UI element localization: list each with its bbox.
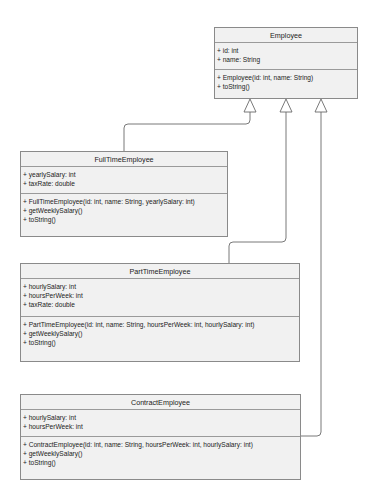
attributes-section: + hourlySalary: int + hoursPerWeek: int — [21, 410, 300, 437]
attributes-section: + yearlySalary: int + taxRate: double — [21, 167, 227, 194]
class-name: PartTimeEmployee — [21, 264, 299, 279]
class-name: Employee — [215, 28, 357, 43]
inheritance-arrow-icon — [315, 99, 327, 112]
attribute: + yearlySalary: int — [23, 170, 227, 179]
class-name: FullTimeEmployee — [21, 152, 227, 167]
method: + toString() — [23, 458, 300, 467]
class-employee: Employee + id: int + name: String + Empl… — [214, 27, 358, 99]
attribute: + hourlySalary: int — [23, 282, 299, 291]
method: + getWeeklySalary() — [23, 449, 300, 458]
inheritance-arrow-icon — [244, 99, 256, 112]
class-parttime-employee: PartTimeEmployee + hourlySalary: int + h… — [20, 263, 300, 362]
connector-parttime-to-employee — [229, 112, 286, 263]
method: + FullTimeEmployee(id: int, name: String… — [23, 197, 227, 206]
methods-section: + Employee(id: int, name: String) + toSt… — [215, 70, 357, 91]
method: + getWeeklySalary() — [23, 206, 227, 215]
attribute: + taxRate: double — [23, 179, 227, 188]
method: + getWeeklySalary() — [23, 329, 299, 338]
methods-section: + FullTimeEmployee(id: int, name: String… — [21, 194, 227, 225]
connector-fulltime-to-employee — [124, 112, 250, 151]
method: + toString() — [23, 215, 227, 224]
methods-section: + ContractEmployee(id: int, name: String… — [21, 437, 300, 468]
attribute: + hoursPerWeek: int — [23, 291, 299, 300]
attributes-section: + id: int + name: String — [215, 43, 357, 70]
methods-section: + PartTimeEmployee(id: int, name: String… — [21, 317, 299, 348]
method: + toString() — [23, 338, 299, 347]
method: + ContractEmployee(id: int, name: String… — [23, 440, 300, 449]
class-fulltime-employee: FullTimeEmployee + yearlySalary: int + t… — [20, 151, 228, 237]
method: + PartTimeEmployee(id: int, name: String… — [23, 320, 299, 329]
method: + toString() — [217, 82, 357, 91]
attributes-section: + hourlySalary: int + hoursPerWeek: int … — [21, 279, 299, 317]
class-name: ContractEmployee — [21, 395, 300, 410]
connector-contract-to-employee — [300, 112, 321, 436]
attribute: + hoursPerWeek: int — [23, 422, 300, 431]
inheritance-arrow-icon — [280, 99, 292, 112]
attribute: + id: int — [217, 46, 357, 55]
method: + Employee(id: int, name: String) — [217, 73, 357, 82]
attribute: + taxRate: double — [23, 300, 299, 309]
attribute: + name: String — [217, 55, 357, 64]
class-contract-employee: ContractEmployee + hourlySalary: int + h… — [20, 394, 301, 480]
attribute: + hourlySalary: int — [23, 413, 300, 422]
